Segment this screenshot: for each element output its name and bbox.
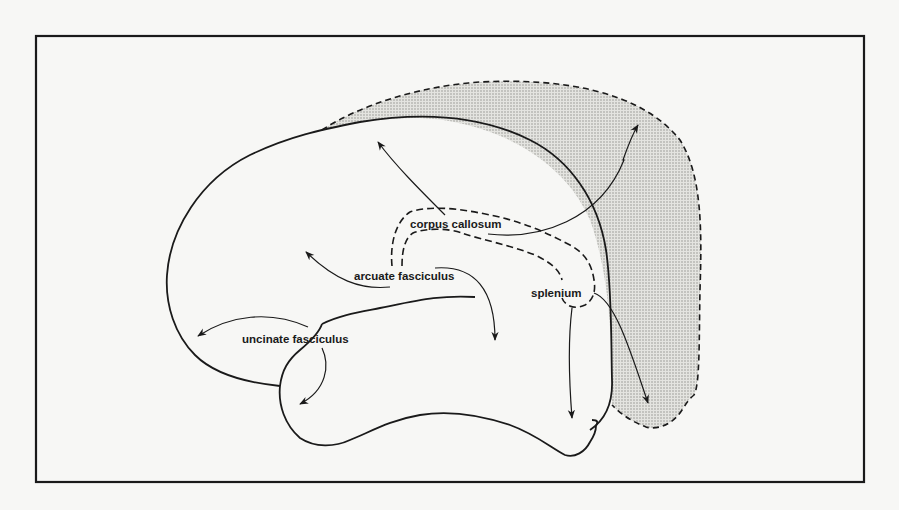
temporal-lobe-outline xyxy=(280,297,598,456)
label-corpus-callosum: corpus callosum xyxy=(410,218,501,230)
label-arcuate-fasciculus: arcuate fasciculus xyxy=(354,270,454,282)
callosal-fiber-up-left xyxy=(378,142,445,215)
shaded-region xyxy=(322,81,701,428)
label-uncinate-fasciculus: uncinate fasciculus xyxy=(242,333,349,345)
splenium-fiber-down xyxy=(569,308,572,418)
label-splenium: splenium xyxy=(531,287,581,299)
brain-diagram: corpus callosum arcuate fasciculus uncin… xyxy=(0,0,899,510)
uncinate-fiber-temporal xyxy=(300,348,326,404)
